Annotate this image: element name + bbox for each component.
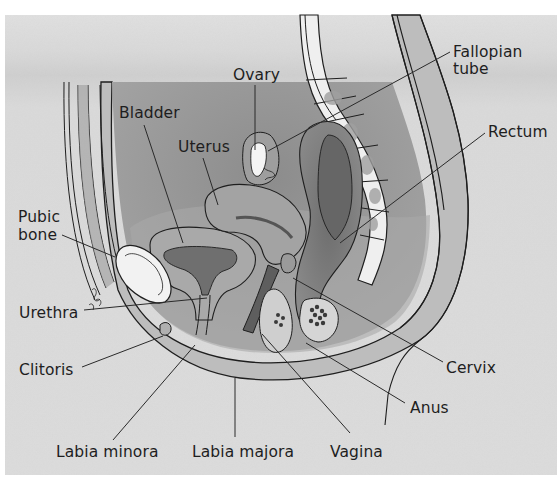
ovary (243, 132, 279, 185)
label-clitoris: Clitoris (19, 361, 74, 379)
label-anus: Anus (410, 399, 449, 417)
label-ovary: Ovary (233, 66, 280, 84)
label-urethra: Urethra (19, 304, 78, 322)
label-vagina: Vagina (330, 443, 383, 461)
label-bladder: Bladder (119, 104, 180, 122)
label-rectum: Rectum (488, 123, 548, 141)
label-cervix: Cervix (446, 359, 496, 377)
clitoris (160, 323, 171, 336)
label-uterus: Uterus (178, 138, 230, 156)
cervix (281, 254, 296, 273)
label-labia-minora: Labia minora (56, 443, 159, 461)
label-labia-majora: Labia majora (192, 443, 294, 461)
pelvis-diagram: Ovary Fallopian tube Bladder Uterus Rect… (0, 0, 557, 479)
